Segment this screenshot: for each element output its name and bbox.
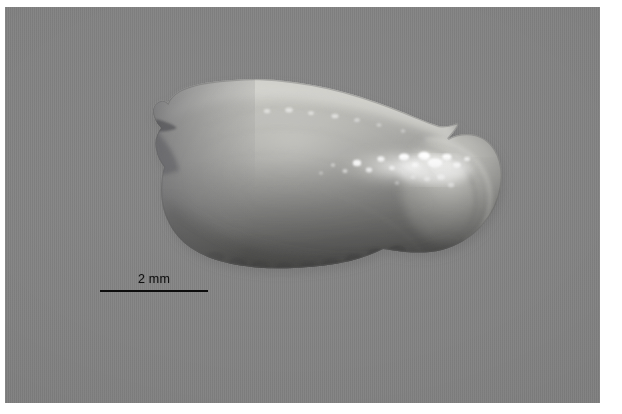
specimen-layer (5, 7, 600, 403)
figure-root: 2 mm (0, 0, 622, 414)
photographic-plate: 2 mm (5, 7, 600, 403)
scale-bar-label: 2 mm (95, 271, 213, 287)
otolith-specimen (5, 7, 600, 403)
scale-bar: 2 mm (95, 271, 213, 303)
scale-bar-line (100, 290, 208, 292)
